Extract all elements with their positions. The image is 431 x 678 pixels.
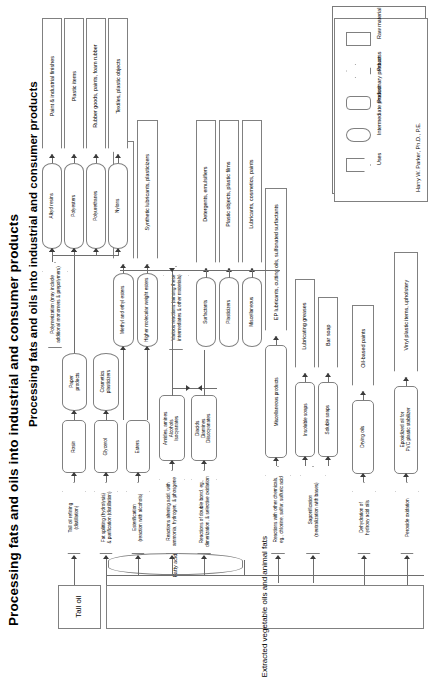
process-dehydration-label: Dehydration of hydroxy acid oils bbox=[358, 501, 369, 536]
arrow-head bbox=[120, 264, 126, 268]
prelim-diacids-label: Diacids Diamines Diisocyanates bbox=[196, 413, 213, 442]
uses-ep-lubricants-label: EP lubricants, cutting oils, sulfonated … bbox=[273, 205, 279, 321]
uses-lubricants-cosmetics-paints-label: Lubricants, cosmetics, paints bbox=[249, 160, 255, 229]
uses-detergents-emulsifiers-label: Detergents, emulsifiers bbox=[203, 167, 209, 222]
prelim-epoxidized-oil-label: Epoxidized oil for PVC plastic stabilize… bbox=[400, 408, 411, 452]
connector bbox=[313, 556, 314, 583]
intermediate-higher-mw-esters: Higher molecular weight esters bbox=[137, 273, 158, 347]
prelim-diacids: Diacids Diamines Diisocyanates bbox=[191, 395, 217, 461]
arrow-head bbox=[403, 473, 409, 477]
process-reactions-double-bond-label: Reactions of double bond, eg., dimerizat… bbox=[198, 477, 209, 548]
arrow-head bbox=[201, 460, 207, 464]
process-peroxide-oxidation: Peroxide oxidation bbox=[395, 482, 419, 554]
connector bbox=[106, 563, 107, 577]
arrow-head bbox=[310, 555, 316, 559]
arrow-head bbox=[186, 385, 190, 391]
process-tall-oil-refining-label: Tall oil refining (distillation) bbox=[68, 503, 79, 533]
intermediate-nylons: Nylons bbox=[108, 163, 128, 249]
uses-detergents-emulsifiers: Detergents, emulsifiers bbox=[196, 120, 216, 269]
arrow-head bbox=[115, 154, 121, 158]
connector bbox=[364, 556, 365, 585]
uses-paint-industrial-finishes: Paint & industrial finishes bbox=[42, 18, 62, 155]
intermediate-alkyd-resins-label: Alkyd resins bbox=[49, 193, 55, 218]
uses-synthetic-lubricants-label: Synthetic lubricants, plasticizers bbox=[144, 154, 150, 230]
connector bbox=[244, 560, 245, 576]
connector bbox=[244, 575, 424, 576]
arrow-head bbox=[325, 456, 331, 460]
intermediate-miscellaneous-label: Miscellaneous bbox=[249, 297, 255, 327]
arrow-head bbox=[71, 555, 77, 559]
arrow-head bbox=[361, 555, 367, 559]
arrow-head bbox=[302, 456, 308, 460]
intermediate-higher-mw-esters-label: Higher molecular weight esters bbox=[145, 278, 151, 342]
connector bbox=[252, 270, 253, 278]
process-saponification: Saponification (neutralization with base… bbox=[300, 466, 326, 554]
raw-tall-oil-label: Tall oil bbox=[75, 596, 84, 618]
arrow-head bbox=[403, 377, 409, 381]
intermediate-polyurethanes-label: Polyurethanes bbox=[93, 191, 99, 221]
uses-vinyl-plastic-items-label: Vinyl plastic items, upholstery bbox=[403, 280, 409, 351]
prelim-insoluble-soaps-label: Insoluble soaps bbox=[302, 403, 308, 436]
process-esterification: Esterification (reaction with alcohols) bbox=[126, 482, 150, 554]
prelim-glycerol: Glycerol bbox=[94, 420, 118, 473]
prelim-amides-amines: Amides, amines Alcohols Isocyanates bbox=[159, 395, 185, 461]
prelim-rosin-label: Rosin bbox=[71, 441, 77, 453]
legend-shape-rounded-rectangle bbox=[346, 96, 371, 110]
uses-plastic-items-label: Plastic items bbox=[71, 71, 77, 101]
arrow-head bbox=[169, 268, 175, 272]
intermediate-miscellaneous: Miscellaneous bbox=[242, 277, 262, 347]
prelim-esters-label: Esters bbox=[135, 440, 141, 453]
prelim-soluble-soaps: Soluble soaps bbox=[318, 382, 338, 457]
legend-label-chevron: Uses bbox=[376, 153, 382, 165]
prelim-soluble-soaps-label: Soluble soaps bbox=[325, 405, 331, 434]
uses-plastic-items: Plastic items bbox=[64, 18, 84, 155]
process-fat-splitting-label: Fat splitting (hydrolysis) & purificatio… bbox=[100, 492, 111, 544]
uses-oil-based-paints: Oil-based paints bbox=[352, 305, 374, 392]
prelim-misc-products-label: Miscellaneous products bbox=[273, 377, 279, 426]
arrow-head bbox=[325, 373, 331, 377]
uses-lubricating-greases: Lubricating greases bbox=[295, 279, 315, 374]
process-tall-oil-refining: Tall oil refining (distillation) bbox=[62, 482, 86, 554]
raw-tall-oil: Tall oil bbox=[58, 585, 101, 629]
arrow-head bbox=[115, 248, 121, 252]
uses-plastic-objects-films-label: Plastic objects, plastic films bbox=[226, 162, 232, 227]
prelim-drying-oils: Drying oils bbox=[352, 400, 374, 474]
arrow-head bbox=[302, 373, 308, 377]
uses-plastic-objects-films: Plastic objects, plastic films bbox=[219, 120, 239, 269]
uses-ep-lubricants: EP lubricants, cutting oils, sulfonated … bbox=[265, 188, 287, 337]
arrow-head bbox=[103, 410, 109, 414]
intermediate-nylons-label: Nylons bbox=[115, 199, 121, 213]
uses-bar-soap: Bar soap bbox=[318, 297, 338, 374]
arrow-head bbox=[71, 472, 77, 476]
uses-synthetic-lubricants: Synthetic lubricants, plasticizers bbox=[137, 120, 158, 265]
process-reactions-other-chemicals-label: Reactions with other chemicals, eg., chl… bbox=[272, 477, 283, 544]
intermediate-polyesters: Polyesters bbox=[64, 163, 84, 249]
process-esterification-label: Esterification (reaction with alcohols) bbox=[132, 494, 143, 542]
raw-extracted-oils: Extracted vegetable oils and animal fats bbox=[106, 585, 424, 629]
intermediate-fatty-acids: Fatty acids bbox=[108, 553, 243, 575]
connector bbox=[123, 347, 124, 420]
arrow-head bbox=[49, 154, 55, 158]
connector bbox=[172, 270, 262, 271]
arrow-head bbox=[135, 555, 141, 559]
intermediate-alkyd-resins: Alkyd resins bbox=[42, 163, 62, 249]
intermediate-paper-products: Paper products bbox=[62, 353, 87, 411]
connector bbox=[278, 556, 279, 583]
intermediate-plasticizers-label: Plasticizers bbox=[226, 300, 232, 324]
uses-rubber-goods: Rubber goods, paints, foam rubber bbox=[86, 18, 106, 155]
arrow-head bbox=[93, 248, 99, 252]
author-credit: Harry W. Parker, Ph.D., P.E. bbox=[415, 122, 421, 192]
intermediate-polyurethanes: Polyurethanes bbox=[86, 163, 106, 249]
arrow-head bbox=[71, 154, 77, 158]
process-polymerization: Polymerization (may include additional m… bbox=[42, 262, 68, 348]
connector bbox=[172, 350, 173, 396]
process-reactions-altering-acid: Reactions altering acid, with ammonia, h… bbox=[159, 470, 185, 554]
arrow-head bbox=[71, 248, 77, 252]
arrow-head bbox=[198, 385, 202, 391]
process-reactions-altering-acid-label: Reactions altering acid, with ammonia, h… bbox=[166, 477, 177, 546]
arrow-head bbox=[169, 460, 175, 464]
intermediate-methyl-ethyl-esters: Methyl and ethyl esters bbox=[113, 273, 134, 347]
prelim-misc-products: Miscellaneous products bbox=[265, 345, 287, 458]
arrow-head bbox=[404, 555, 410, 559]
legend-shape-rectangle bbox=[346, 32, 371, 46]
